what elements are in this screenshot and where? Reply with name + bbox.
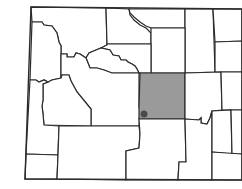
county-weston [215,41,242,72]
map-canvas [0,0,242,189]
county-niobrara [221,72,242,110]
county-uinta [25,154,58,179]
county-laramie [212,152,242,180]
wyoming-county-locator-map [0,0,242,189]
county-goshen [231,110,242,154]
county-crook [213,9,242,42]
counties-layer [25,7,242,180]
county-johnson [151,28,185,73]
city-marker-dot [141,111,148,118]
county-campbell [185,9,215,73]
county-platte [212,110,232,154]
